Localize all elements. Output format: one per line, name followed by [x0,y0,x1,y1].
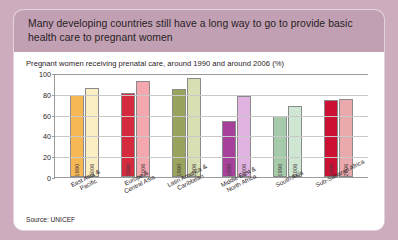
bar: 2006 [85,88,99,177]
plot-area: 1990200619902006199020061990200619902006… [24,72,374,217]
x-axis-category: East Asia &Pacific [58,180,109,220]
bar-groups: 1990200619902006199020061990200619902006… [55,74,368,177]
bar-group: 19902006 [110,74,161,177]
bar: 1990 [273,116,287,177]
gridline [55,136,368,137]
page-root: Many developing countries still have a l… [0,0,398,240]
x-axis-category: Middle East &North Africa [211,180,262,220]
y-axis-tick-label: 0 [47,174,51,183]
y-axis-tick-label: 60 [43,111,51,120]
bar-year-label: 1990 [74,164,80,177]
chart-subtitle: Pregnant women receiving prenatal care, … [26,59,374,68]
y-axis-tick-label: 20 [43,153,51,162]
bar-group: 19902006 [59,74,110,177]
card-body: Pregnant women receiving prenatal care, … [14,52,384,230]
gridline [55,157,368,158]
bar: 1990 [121,93,135,177]
y-axis-tick-label: 40 [43,132,51,141]
bar: 1990 [324,100,338,177]
y-axis-tick-mark [52,74,55,75]
bar: 2006 [187,78,201,177]
x-axis-category: Europe &Central Asia [109,180,160,220]
chart-card: Many developing countries still have a l… [14,10,384,230]
y-axis-tick-label: 100 [39,70,51,79]
gridline [55,116,368,117]
bar-group: 19902006 [262,74,313,177]
y-axis-tick-mark [52,178,55,179]
bar: 1990 [172,89,186,177]
bar-year-label: 1990 [277,164,283,177]
y-axis-tick-label: 80 [43,90,51,99]
gridline [55,95,368,96]
x-axis-category: Sub-Saharan Africa [313,180,364,220]
plot-frame: 1990200619902006199020061990200619902006… [54,74,368,178]
x-axis-category: South Asia [262,180,313,220]
bar-year-label: 1990 [125,164,131,177]
y-axis-tick-mark [52,157,55,158]
bar-group: 19902006 [211,74,262,177]
x-axis-labels: East Asia &PacificEurope &Central AsiaLa… [54,180,368,220]
x-axis-category: Latin America &Caribbean [160,180,211,220]
y-axis-tick-mark [52,116,55,117]
y-axis-tick-mark [52,136,55,137]
y-axis-tick-mark [52,95,55,96]
page-title: Many developing countries still have a l… [28,17,370,44]
bar: 1990 [222,121,236,177]
source-note: Source: UNICEF [26,216,75,223]
bar: 2006 [288,106,302,177]
card-header: Many developing countries still have a l… [14,10,384,52]
